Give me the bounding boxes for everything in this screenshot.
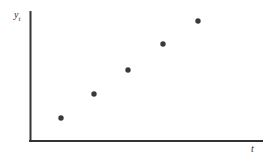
plot-canvas bbox=[0, 0, 271, 156]
data-point bbox=[160, 41, 165, 46]
scatter-plot-figure: yt t bbox=[0, 0, 271, 156]
y-axis-label-subscript: t bbox=[18, 15, 20, 23]
data-point bbox=[91, 91, 96, 96]
plot-background bbox=[0, 0, 271, 156]
y-axis-label: yt bbox=[14, 10, 20, 23]
data-point bbox=[125, 67, 130, 72]
x-axis-label: t bbox=[251, 144, 254, 154]
data-point bbox=[195, 18, 200, 23]
data-point bbox=[58, 115, 63, 120]
